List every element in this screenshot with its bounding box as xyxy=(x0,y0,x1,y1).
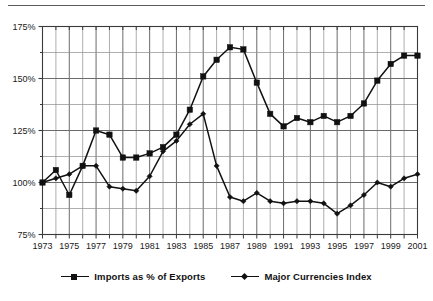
data-point-marker xyxy=(321,113,326,118)
square-marker-icon xyxy=(61,272,89,282)
data-point-marker xyxy=(267,111,272,116)
data-point-marker xyxy=(53,167,58,172)
data-point-marker xyxy=(375,78,380,83)
y-axis-tick-label: 100% xyxy=(0,178,36,188)
data-point-marker xyxy=(388,61,393,66)
x-axis-tick-label: 2001 xyxy=(400,241,433,251)
data-point-marker xyxy=(294,199,299,204)
data-point-marker xyxy=(134,155,139,160)
data-point-marker xyxy=(93,128,98,133)
data-point-marker xyxy=(107,132,112,137)
data-point-marker xyxy=(187,107,192,112)
chart-legend: Imports as % of Exports Major Currencies… xyxy=(0,271,433,282)
data-point-marker xyxy=(281,201,286,206)
data-point-marker xyxy=(227,45,232,50)
legend-label-major-currencies: Major Currencies Index xyxy=(264,271,371,282)
line-chart-plot xyxy=(0,0,433,301)
data-point-marker xyxy=(294,115,299,120)
data-point-marker xyxy=(227,194,232,199)
data-point-marker xyxy=(348,113,353,118)
data-point-marker xyxy=(241,47,246,52)
y-axis-tick-label: 150% xyxy=(0,74,36,84)
data-point-marker xyxy=(401,53,406,58)
data-point-marker xyxy=(415,172,420,177)
y-axis-tick-label: 75% xyxy=(0,230,36,240)
data-point-marker xyxy=(120,155,125,160)
data-point-marker xyxy=(254,80,259,85)
data-point-marker xyxy=(147,151,152,156)
data-point-marker xyxy=(415,53,420,58)
data-point-marker xyxy=(201,74,206,79)
data-point-marker xyxy=(334,119,339,124)
y-axis-tick-label: 125% xyxy=(0,126,36,136)
data-point-marker xyxy=(308,119,313,124)
data-point-marker xyxy=(361,101,366,106)
data-point-marker xyxy=(214,57,219,62)
diamond-marker-icon xyxy=(231,272,259,282)
legend-label-imports: Imports as % of Exports xyxy=(94,271,205,282)
data-point-marker xyxy=(308,199,313,204)
data-point-marker xyxy=(281,124,286,129)
data-point-marker xyxy=(120,186,125,191)
y-axis-tick-label: 175% xyxy=(0,22,36,32)
legend-entry-major-currencies: Major Currencies Index xyxy=(231,271,371,282)
data-point-marker xyxy=(214,163,219,168)
chart-figure: 175%150%125%100%75% 19731975197719791981… xyxy=(0,0,433,301)
data-point-marker xyxy=(174,132,179,137)
data-point-marker xyxy=(53,176,58,181)
legend-entry-imports: Imports as % of Exports xyxy=(61,271,205,282)
data-point-marker xyxy=(67,192,72,197)
